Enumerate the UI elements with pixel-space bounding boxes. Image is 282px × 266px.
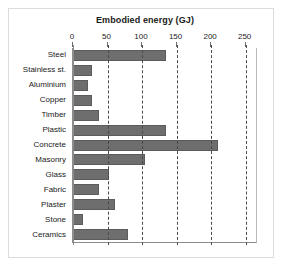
bar-fabric	[73, 184, 99, 195]
bar-stone	[73, 214, 83, 225]
y-label-aluminium: Aluminium	[29, 80, 66, 89]
bar-concrete	[73, 140, 218, 151]
y-axis-category-labels: SteelStainless st.AluminiumCopperTimberP…	[0, 48, 70, 242]
bar-masonry	[73, 154, 145, 165]
bar-row	[73, 152, 256, 167]
y-label-ceramics: Ceramics	[32, 230, 66, 239]
y-label-stainless-st: Stainless st.	[23, 65, 66, 74]
gridline-150	[177, 45, 178, 245]
y-label-timber: Timber	[41, 110, 66, 119]
y-label-stone: Stone	[45, 215, 66, 224]
bar-timber	[73, 110, 99, 121]
x-tick-200	[210, 42, 211, 47]
bar-row	[73, 63, 256, 78]
x-tick-label-100: 100	[134, 32, 147, 41]
y-label-masonry: Masonry	[35, 155, 66, 164]
y-label-steel: Steel	[48, 50, 66, 59]
bar-plaster	[73, 199, 115, 210]
gridline-50	[108, 45, 109, 245]
bar-row	[73, 78, 256, 93]
x-tick-50	[107, 42, 108, 47]
x-tick-100	[141, 42, 142, 47]
bar-stainless-st	[73, 65, 92, 76]
bar-ceramics	[73, 229, 128, 240]
bar-row	[73, 123, 256, 138]
y-label-plastic: Plastic	[42, 125, 66, 134]
x-tick-label-150: 150	[169, 32, 182, 41]
x-tick-label-50: 50	[102, 32, 111, 41]
bar-copper	[73, 95, 92, 106]
bar-glass	[73, 169, 109, 180]
bar-row	[73, 138, 256, 153]
bar-aluminium	[73, 80, 88, 91]
bar-row	[73, 108, 256, 123]
x-tick-label-250: 250	[238, 32, 251, 41]
gridline-100	[142, 45, 143, 245]
gridline-200	[211, 45, 212, 245]
bar-row	[73, 212, 256, 227]
bar-row	[73, 93, 256, 108]
bar-row	[73, 182, 256, 197]
y-label-concrete: Concrete	[34, 140, 66, 149]
y-label-copper: Copper	[40, 95, 66, 104]
x-tick-0	[72, 42, 73, 47]
plot-area	[72, 48, 257, 243]
x-tick-label-0: 0	[70, 32, 74, 41]
x-tick-150	[176, 42, 177, 47]
bar-row	[73, 167, 256, 182]
bar-steel	[73, 50, 166, 61]
bar-plastic	[73, 125, 166, 136]
gridline-250	[246, 45, 247, 245]
x-tick-250	[245, 42, 246, 47]
y-label-plaster: Plaster	[41, 200, 66, 209]
bar-row	[73, 227, 256, 242]
gridline-0	[73, 45, 74, 245]
chart-title: Embodied energy (GJ)	[20, 15, 270, 25]
y-label-glass: Glass	[46, 170, 66, 179]
chart-figure: Embodied energy (GJ) 050100150200250 Ste…	[0, 0, 282, 266]
x-tick-label-200: 200	[203, 32, 216, 41]
bar-rows	[73, 48, 256, 242]
y-label-fabric: Fabric	[44, 185, 66, 194]
bar-row	[73, 48, 256, 63]
bar-row	[73, 197, 256, 212]
